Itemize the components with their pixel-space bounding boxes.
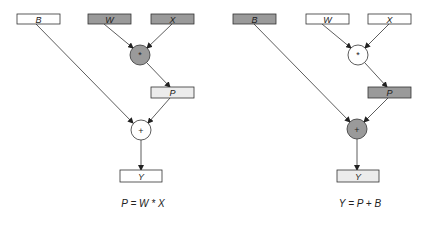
diagram-forward-add: B W X * P + Y Y = P + B <box>233 14 411 209</box>
node-multiply-op: * <box>348 45 368 65</box>
node-p: P <box>368 87 411 98</box>
edge-b-to-add <box>36 24 133 123</box>
svg-text:Y: Y <box>355 172 362 182</box>
edge-x-to-mul <box>147 24 172 48</box>
node-b: B <box>17 14 60 25</box>
edge-p-to-add <box>364 98 388 122</box>
svg-text:Y: Y <box>138 172 145 182</box>
svg-text:B: B <box>35 15 41 25</box>
edge-w-to-mul <box>104 24 133 48</box>
node-y: Y <box>120 170 162 182</box>
svg-text:X: X <box>168 15 176 25</box>
edge-w-to-mul <box>322 24 351 48</box>
svg-text:P: P <box>169 88 175 98</box>
node-p: P <box>151 87 194 98</box>
node-w: W <box>306 14 349 25</box>
edge-x-to-mul <box>365 24 389 48</box>
node-y: Y <box>337 170 379 182</box>
diagram-forward-multiply: B W X * P + Y P = W * X <box>17 14 194 209</box>
caption-left: P = W * X <box>121 198 165 209</box>
svg-text:X: X <box>385 15 393 25</box>
svg-text:B: B <box>251 15 257 25</box>
node-b: B <box>233 14 276 25</box>
node-add-op: + <box>347 119 367 139</box>
svg-text:P: P <box>386 88 392 98</box>
edge-mul-to-p <box>147 63 170 87</box>
svg-text:+: + <box>354 125 359 135</box>
node-add-op: + <box>131 120 151 140</box>
edge-p-to-add <box>148 98 170 123</box>
svg-text:*: * <box>138 50 142 60</box>
node-w: W <box>88 14 131 25</box>
edge-b-to-add <box>254 24 350 122</box>
computation-graph-figure: B W X * P + Y P = W * X <box>0 0 423 227</box>
edge-mul-to-p <box>365 63 387 87</box>
svg-text:+: + <box>138 126 143 136</box>
node-x: X <box>151 14 194 25</box>
node-multiply-op: * <box>130 45 150 65</box>
caption-right: Y = P + B <box>339 198 382 209</box>
svg-text:*: * <box>356 50 360 60</box>
node-x: X <box>368 14 411 25</box>
